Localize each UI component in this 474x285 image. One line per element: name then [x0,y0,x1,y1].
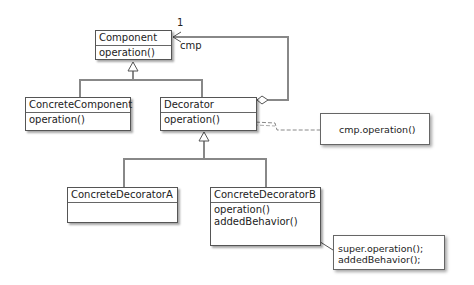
operation: operation() [214,204,317,216]
operations-empty [68,203,177,205]
class-concrete-component[interactable]: ConcreteComponent operation() [25,97,131,131]
note-text: cmp.operation() [339,124,429,135]
inheritance-triangle-icon [128,62,138,71]
note-decorator-b: super.operation(); addedBehavior(); [333,235,445,270]
operation: operation() [99,47,168,59]
note-text: addedBehavior(); [338,254,444,265]
class-name: Component [96,31,171,46]
role-label: cmp [180,40,202,52]
class-concrete-decorator-a[interactable]: ConcreteDecoratorA [67,187,178,223]
class-name: ConcreteDecoratorA [68,188,177,203]
class-name: Decorator [161,98,256,113]
note-text: super.operation(); [338,243,444,254]
class-decorator[interactable]: Decorator operation() [160,97,257,131]
operation: operation() [29,114,127,126]
class-component[interactable]: Component operation() [95,30,172,60]
operation: operation() [164,114,253,126]
class-name: ConcreteDecoratorB [211,188,320,203]
multiplicity-label: 1 [177,17,183,29]
aggregation-diamond-icon [257,96,268,104]
operation: addedBehavior() [214,216,317,228]
note-decorator: cmp.operation() [320,113,430,145]
inheritance-component [80,70,202,97]
inheritance-triangle-icon [199,132,209,141]
class-concrete-decorator-b[interactable]: ConcreteDecoratorB operation() addedBeha… [210,187,321,246]
class-name: ConcreteComponent [26,98,130,113]
inheritance-decorator [124,140,266,187]
